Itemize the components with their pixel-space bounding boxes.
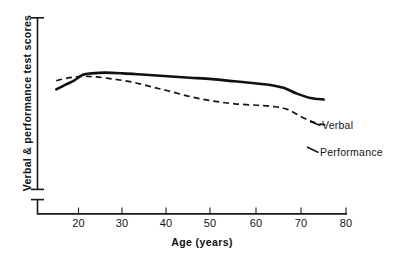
x-tick-label-20: 20	[65, 217, 93, 229]
x-tick-label-40: 40	[152, 217, 180, 229]
series-label-verbal: Verbal	[322, 119, 353, 131]
series-label-performance: Performance	[320, 146, 383, 158]
x-tick-label-30: 30	[108, 217, 136, 229]
x-tick-label-60: 60	[242, 217, 270, 229]
performance-label-leader	[307, 147, 319, 153]
x-tick-label-70: 70	[287, 217, 315, 229]
x-tick-label-50: 50	[196, 217, 224, 229]
y-axis-title: Verbal & performance test scores	[21, 8, 33, 198]
x-tick-label-80: 80	[332, 217, 360, 229]
x-axis	[38, 200, 348, 215]
chart-figure: 20 30 40 50 60 70 80 Verbal Performance …	[0, 0, 404, 265]
x-axis-title: Age (years)	[0, 236, 404, 248]
series-line-performance	[56, 76, 328, 125]
